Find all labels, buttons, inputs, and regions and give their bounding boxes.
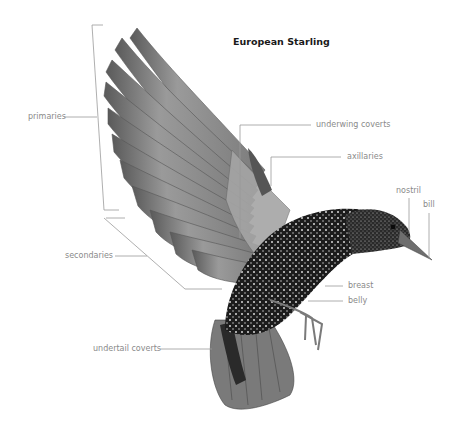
label-underwing-coverts: underwing coverts: [316, 120, 390, 129]
label-breast: breast: [348, 281, 373, 290]
bill-shape: [398, 230, 432, 260]
label-primaries: primaries: [28, 112, 66, 121]
label-bill: bill: [423, 200, 435, 209]
label-belly: belly: [348, 296, 367, 305]
label-undertail-coverts: undertail coverts: [93, 344, 161, 353]
label-nostril: nostril: [396, 186, 421, 195]
label-secondaries: secondaries: [65, 251, 113, 260]
starling-illustration: [0, 0, 462, 428]
label-axillaries: axillaries: [347, 152, 383, 161]
diagram-title: European Starling: [233, 36, 330, 47]
eye: [391, 225, 396, 230]
